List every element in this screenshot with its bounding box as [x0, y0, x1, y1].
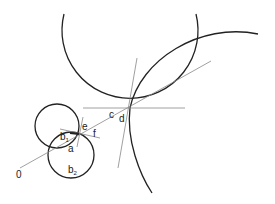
small-circle-b1: [35, 104, 79, 148]
label-origin: 0: [16, 169, 22, 180]
label-e: e: [82, 121, 88, 132]
radial-line: [20, 61, 211, 168]
label-c: c: [109, 109, 114, 120]
large-circle-upper: [62, 14, 198, 98]
contact-segment: [70, 133, 79, 134]
label-a: a: [68, 143, 74, 154]
label-f: f: [93, 128, 96, 139]
diagram-canvas: 0 a b1 b2 c d e f: [0, 0, 275, 204]
label-d: d: [119, 113, 125, 124]
label-b2: b2: [68, 164, 78, 176]
